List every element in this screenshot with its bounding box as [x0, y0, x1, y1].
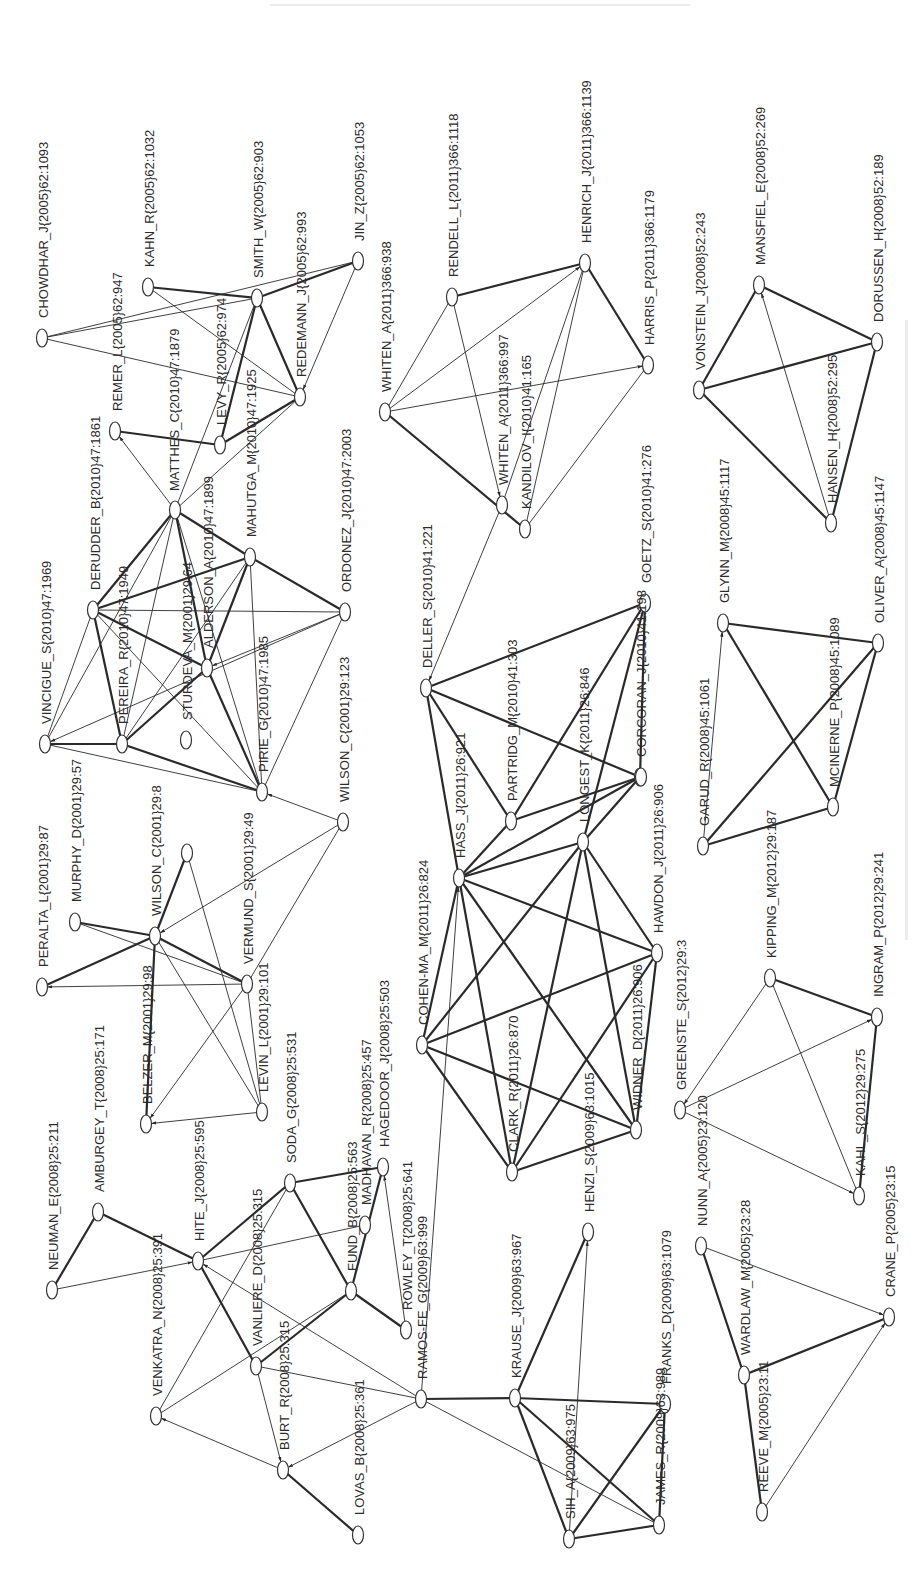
node-redemann — [295, 388, 306, 406]
node-label-vermund: VERMUND_S{2001}29:49 — [241, 812, 256, 964]
node-burt — [278, 1461, 289, 1479]
edge-hass-clark — [459, 878, 512, 1172]
node-label-nunn_a: NUNN_A{2005}23:120 — [695, 1095, 710, 1226]
node-derudder — [88, 601, 99, 619]
edge-jin-redemann — [303, 261, 358, 390]
edge-rendell-henrich — [452, 263, 585, 297]
node-hagedoor — [378, 1158, 389, 1176]
node-label-garud: GARUD_R{2008}45:1061 — [697, 678, 712, 826]
edge-wilson_c8-vermund — [155, 936, 247, 984]
node-reeve — [757, 1503, 768, 1521]
edge-reeve-crane — [762, 1323, 885, 1512]
node-label-matthes: MATTHES_C{2010}47:1879 — [167, 329, 182, 491]
node-label-murphy: MURPHY_D{2001}29:57 — [69, 759, 84, 902]
node-pirie — [257, 783, 268, 801]
node-hawdon_897 — [636, 768, 647, 786]
node-label-mcinerne: MCINERNE_P{2008}45:1089 — [827, 617, 842, 787]
node-label-cohen: COHEN-MA_M{2011}26:824 — [416, 860, 431, 1025]
edge-kipping-greenste — [684, 978, 770, 1104]
node-label-madhavan: MADHAVAN_R{2008}25:457 — [359, 1039, 374, 1205]
node-label-redemann: REDEMANN_J{2005}62:993 — [294, 212, 309, 378]
node-kahl — [854, 1187, 865, 1205]
node-oliver — [873, 634, 884, 652]
node-fund — [346, 1282, 357, 1300]
edge-sih-james — [569, 1525, 659, 1539]
node-sturdeva2 — [182, 844, 193, 862]
node-label-krause: KRAUSE_J{2009}63:967 — [509, 1233, 524, 1378]
node-pereira — [117, 735, 128, 753]
edge-murphy-wilson_c8 — [75, 922, 155, 936]
edge-fund-vanliere — [256, 1291, 351, 1366]
node-belzer — [141, 1115, 152, 1133]
edge-peralta-wilson_c8 — [42, 936, 155, 987]
edge-matthes-vincigue — [45, 510, 175, 744]
node-label-hagedoor: HAGEDOOR_J{2008}25:503 — [377, 980, 392, 1147]
node-madhavan — [360, 1216, 371, 1234]
edge-mahutga-ordonez — [250, 557, 345, 612]
node-label-neuman: NEUMAN_E{2008}25:211 — [46, 1121, 61, 1270]
node-label-partridg: PARTRIDG_M{2010}41:303 — [505, 640, 520, 801]
node-label-soda: SODA_G{2008}25:531 — [284, 1031, 299, 1163]
node-partridg — [506, 812, 517, 830]
edge-hite-vanliere — [198, 1261, 256, 1366]
node-krause — [510, 1389, 521, 1407]
edge-hite-soda — [198, 1183, 290, 1261]
node-kahn — [143, 278, 154, 296]
node-label-oliver: OLIVER_A{2008}45:1147 — [872, 476, 887, 623]
node-label-wilson_c123: WILSON_C{2001}29:123 — [337, 657, 352, 802]
node-label-crane: CRANE_P{2005}23:15 — [883, 1165, 898, 1297]
node-label-fund: FUND_B{2008}25:563 — [345, 1142, 360, 1271]
edge-vermund-wilson_c123 — [247, 822, 343, 984]
labels-layer: CHOWDHAR_J{2005}62:1093REMER_L{2005}62:9… — [36, 80, 898, 1519]
node-label-levin: LEVIN_L{2001}29:101 — [256, 963, 271, 1092]
node-whiten_938 — [380, 403, 391, 421]
node-label-kipping: KIPPING_M{2012}29:187 — [764, 810, 779, 958]
node-label-burt: BURT_R{2008}25:315 — [277, 1321, 292, 1450]
node-jin — [353, 252, 364, 270]
edge-kipping-ingram — [770, 978, 877, 1017]
edge-amburgey-hite — [98, 1212, 198, 1261]
node-harris — [643, 356, 654, 374]
edge-henrich-harris — [585, 263, 648, 365]
node-label-widner: WIDNER_D{2011}26:906 — [630, 964, 645, 1110]
node-label-ordonez: ORDONEZ_J{2010}47:2003 — [339, 429, 354, 592]
edge-alderson-pirie — [207, 668, 262, 792]
node-label-reeve: REEVE_M{2005}23:11 — [756, 1361, 771, 1492]
edge-venkatra-soda — [156, 1183, 290, 1416]
node-label-wardlaw: WARDLAW_M{2005}23:28 — [738, 1200, 753, 1355]
node-whiten_997 — [497, 496, 508, 514]
node-label-glynn: GLYNN_M{2008}45:1117 — [717, 458, 732, 603]
node-label-clark: CLARK_R{2011}26:870 — [506, 1016, 521, 1152]
edge-levy-redemann — [220, 397, 300, 445]
node-vermund — [242, 975, 253, 993]
node-label-whiten_997: WHITEN_A{2011}366:997 — [496, 334, 511, 485]
node-label-kahn: KAHN_R{2005}62:1032 — [142, 130, 157, 267]
node-label-harris: HARRIS_P{2011}366:1179 — [642, 190, 657, 345]
node-label-wilson_c8: WILSON_C{2001}29:8 — [149, 785, 164, 916]
node-hansen — [826, 514, 837, 532]
edge-kahn-smith_w — [148, 287, 257, 298]
node-hite — [193, 1252, 204, 1270]
node-label-chowdhar: CHOWDHAR_J{2005}62:1093 — [36, 142, 51, 318]
node-label-remer: REMER_L{2005}62:947 — [110, 272, 125, 411]
network-diagram: CHOWDHAR_J{2005}62:1093REMER_L{2005}62:9… — [0, 0, 923, 1591]
node-amburgey — [93, 1203, 104, 1221]
edge-longest-clark — [512, 842, 583, 1172]
node-label-henrich: HENRICH_J{2011}366:1139 — [579, 80, 594, 243]
node-label-vonstein: VONSTEIN_J{2008}52:243 — [693, 212, 708, 370]
node-cohen — [417, 1036, 428, 1054]
node-label-goetz: GOETZ_S{2010}41:276 — [639, 445, 654, 583]
edge-chowdhar-jin — [42, 261, 358, 338]
node-rendell — [447, 288, 458, 306]
edge-soda-fund — [290, 1183, 351, 1291]
node-label-hansen: HANSEN_H{2008}52:295 — [825, 355, 840, 503]
node-label-hite: HITE_J{2008}25:595 — [192, 1120, 207, 1241]
node-label-amburgey: AMBURGEY_T{2008}25:171 — [92, 1025, 107, 1192]
node-ramos — [416, 1390, 427, 1408]
node-soda — [285, 1174, 296, 1192]
edge-hass-corcoran — [459, 777, 640, 878]
edge-ordonez-alderson — [212, 612, 345, 666]
node-clark — [507, 1163, 518, 1181]
node-label-jin: JIN_Z{2005}62:1053 — [352, 122, 367, 241]
node-vonstein — [694, 381, 705, 399]
